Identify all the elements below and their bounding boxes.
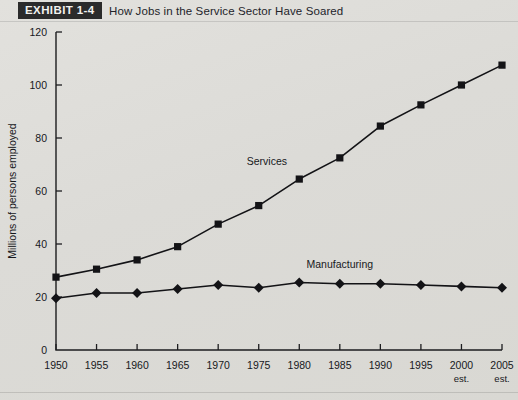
- exhibit-page: EXHIBIT 1-4 How Jobs in the Service Sect…: [0, 0, 518, 400]
- data-point: [335, 279, 345, 289]
- x-tick-label: 1985: [328, 359, 352, 371]
- data-point: [173, 284, 183, 294]
- y-tick-label: 60: [35, 185, 47, 197]
- x-tick-label: 1955: [85, 359, 109, 371]
- data-point: [456, 281, 466, 291]
- data-point: [255, 202, 262, 209]
- x-tick-label: 1960: [125, 359, 149, 371]
- series-line: [56, 282, 502, 298]
- data-point: [296, 175, 303, 182]
- data-point: [51, 293, 61, 303]
- y-tick-label: 0: [41, 344, 47, 356]
- exhibit-header: EXHIBIT 1-4 How Jobs in the Service Sect…: [0, 2, 518, 21]
- exhibit-number-badge: EXHIBIT 1-4: [18, 2, 102, 19]
- data-point: [377, 122, 384, 129]
- series-label-services: Services: [247, 155, 287, 167]
- exhibit-title: How Jobs in the Service Sector Have Soar…: [109, 3, 343, 19]
- x-tick-label: 2005: [490, 359, 514, 371]
- data-point: [92, 288, 102, 298]
- x-tick-label: 1950: [44, 359, 68, 371]
- y-tick-label: 100: [29, 79, 47, 91]
- data-point: [93, 266, 100, 273]
- chart-axes: [56, 32, 502, 350]
- chart-container: 020406080100120Millions of persons emplo…: [0, 22, 518, 400]
- x-tick-label: 1980: [288, 359, 312, 371]
- data-point: [174, 243, 181, 250]
- axis-lines: [56, 32, 502, 350]
- y-tick-label: 120: [29, 26, 47, 38]
- data-point: [458, 81, 465, 88]
- x-tick-label: 1975: [247, 359, 271, 371]
- data-point: [497, 283, 507, 293]
- x-tick-sublabel: est.: [494, 373, 509, 384]
- series-label-manufacturing: Manufacturing: [307, 258, 374, 270]
- data-point: [52, 274, 59, 281]
- line-chart: 020406080100120Millions of persons emplo…: [0, 22, 518, 400]
- data-point: [254, 283, 264, 293]
- x-tick-label: 1965: [166, 359, 190, 371]
- footer-divider: [0, 392, 518, 393]
- data-point: [294, 277, 304, 287]
- y-tick-label: 80: [35, 132, 47, 144]
- y-axis: 020406080100120Millions of persons emplo…: [6, 26, 62, 356]
- data-point: [498, 62, 505, 69]
- data-point: [215, 221, 222, 228]
- x-tick-label: 1970: [207, 359, 231, 371]
- data-point: [336, 154, 343, 161]
- y-axis-title: Millions of persons employed: [6, 123, 18, 259]
- y-tick-label: 20: [35, 291, 47, 303]
- data-point: [375, 279, 385, 289]
- data-point: [132, 288, 142, 298]
- x-tick-sublabel: est.: [454, 373, 469, 384]
- data-point: [416, 280, 426, 290]
- data-point: [417, 101, 424, 108]
- x-tick-label: 1995: [409, 359, 433, 371]
- x-tick-label: 2000: [450, 359, 474, 371]
- x-tick-label: 1990: [369, 359, 393, 371]
- data-point: [133, 256, 140, 263]
- y-tick-label: 40: [35, 238, 47, 250]
- series-line: [56, 65, 502, 277]
- series-services: Services: [52, 62, 505, 281]
- data-point: [213, 280, 223, 290]
